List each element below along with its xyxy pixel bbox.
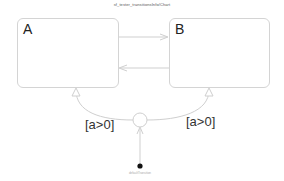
transition-b-to-a[interactable] [119, 65, 169, 71]
default-transition-caption: defaultTransition [126, 171, 154, 175]
transition-a-to-b[interactable] [118, 34, 168, 40]
state-b[interactable]: B [169, 18, 270, 88]
connective-junction[interactable] [133, 113, 147, 127]
default-transition-dot [137, 163, 142, 168]
state-a[interactable]: A [17, 18, 119, 88]
guard-label-to-a: [a>0] [85, 117, 114, 132]
arrowhead-icon [205, 88, 213, 96]
state-b-label: B [175, 21, 184, 37]
default-transition[interactable] [137, 127, 143, 169]
state-a-label: A [23, 21, 32, 37]
transition-junction-to-a[interactable] [72, 88, 133, 120]
arrowhead-icon [72, 88, 80, 96]
guard-label-to-b: [a>0] [186, 114, 215, 129]
